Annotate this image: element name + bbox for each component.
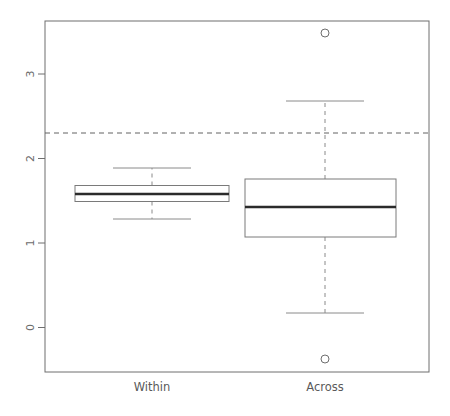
y-tick-label-3: 3 — [24, 71, 37, 78]
y-tick-label-1: 1 — [24, 240, 37, 247]
y-tick-label-0: 0 — [24, 324, 37, 331]
box-group-within — [75, 168, 229, 219]
outlier-point-across-high — [321, 29, 329, 37]
boxplot-figure: 3 2 1 0 — [0, 0, 450, 416]
outlier-point-across-low — [321, 355, 329, 363]
category-label-across: Across — [306, 380, 343, 394]
y-axis-tick-labels: 3 2 1 0 — [24, 71, 37, 332]
box-group-across — [245, 29, 396, 363]
y-axis-ticks — [38, 74, 45, 328]
category-label-within: Within — [134, 380, 171, 394]
boxplot-canvas: 3 2 1 0 — [0, 0, 450, 416]
y-tick-label-2: 2 — [24, 155, 37, 162]
